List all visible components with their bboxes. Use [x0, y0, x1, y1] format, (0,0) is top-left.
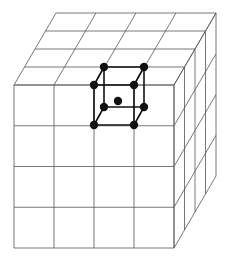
corner-atom — [140, 103, 148, 111]
unit-cell — [94, 67, 144, 125]
corner-atom — [130, 121, 138, 129]
lattice-canvas — [0, 0, 231, 260]
atoms — [90, 63, 148, 129]
corner-atom — [100, 103, 108, 111]
cube-grid — [14, 13, 216, 248]
corner-atom — [130, 81, 138, 89]
corner-atom — [140, 63, 148, 71]
corner-atom — [90, 121, 98, 129]
bcc-lattice-diagram — [0, 0, 231, 260]
corner-atom — [100, 63, 108, 71]
body-center-atom — [114, 97, 122, 105]
corner-atom — [90, 81, 98, 89]
